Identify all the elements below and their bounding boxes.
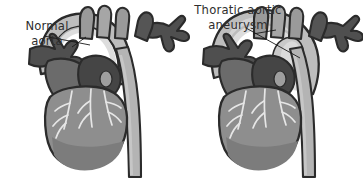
aorta-comparison-figure: Normal aorta Thoratic aortic aneurysm (0, 0, 363, 179)
right-panel-aneurysm: Thoratic aortic aneurysm (193, 3, 363, 177)
diagram-canvas: Normal aorta Thoratic aortic aneurysm (0, 0, 363, 179)
normal-aorta-label-line1: Normal (25, 19, 68, 33)
normal-aorta-label-line2: aorta (31, 34, 63, 48)
aneurysm-label-line1: Thoratic aortic (193, 3, 281, 17)
left-panel-normal: Normal aorta (25, 6, 189, 177)
aneurysm-label-line2: aneurysm (208, 18, 268, 32)
